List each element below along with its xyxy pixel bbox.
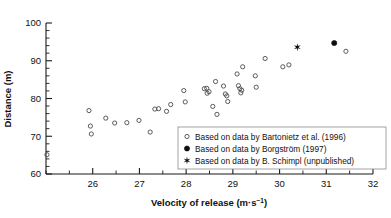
x-tick-label: 30 <box>274 178 285 189</box>
x-tick-label: 31 <box>321 178 332 189</box>
data-point-open-circle <box>87 108 91 112</box>
data-point-open-circle <box>169 102 173 106</box>
data-point-open-circle <box>213 79 217 83</box>
y-tick-label: 70 <box>30 131 41 142</box>
x-tick-label: 32 <box>368 178 379 189</box>
x-tick-label: 26 <box>87 178 98 189</box>
series-1-points <box>332 40 337 45</box>
data-point-open-circle <box>226 99 230 103</box>
data-point-open-circle <box>183 100 187 104</box>
data-point-open-circle <box>239 91 243 95</box>
data-point-open-circle <box>211 104 215 108</box>
chart-canvas: 60708090100 26272829303132 Based on data… <box>0 0 391 218</box>
x-tick-label: 29 <box>228 178 239 189</box>
data-point-open-circle <box>221 84 225 88</box>
data-point-open-circle <box>263 56 267 60</box>
scatter-chart-figure: 60708090100 26272829303132 Based on data… <box>0 0 391 218</box>
data-point-open-circle <box>104 116 108 120</box>
y-tick-label: 80 <box>30 93 41 104</box>
chart-legend: Based on data by Bartonietz et al. (1996… <box>178 127 386 169</box>
y-axis-ticks <box>46 23 52 174</box>
data-point-open-circle <box>113 121 117 125</box>
data-point-open-circle <box>241 65 245 69</box>
data-point-open-circle <box>254 85 258 89</box>
data-point-open-circle <box>182 88 186 92</box>
legend-label-2: Based on data by B. Schimpl (unpublished… <box>195 156 354 166</box>
data-point-open-circle <box>148 130 152 134</box>
data-point-star <box>294 43 301 51</box>
data-point-open-circle <box>281 65 285 69</box>
data-point-open-circle <box>137 118 141 122</box>
data-point-filled-circle <box>184 146 189 151</box>
legend-label-1: Based on data by Borgström (1997) <box>195 144 327 154</box>
legend-label-0: Based on data by Bartonietz et al. (1996… <box>195 132 346 142</box>
data-point-open-circle <box>88 124 92 128</box>
series-2-points <box>294 43 301 51</box>
x-tick-label: 27 <box>134 178 145 189</box>
x-tick-label: 28 <box>181 178 192 189</box>
data-point-open-circle <box>287 63 291 67</box>
y-tick-label: 60 <box>30 168 41 179</box>
data-point-open-circle <box>215 112 219 116</box>
data-point-open-circle <box>235 72 239 76</box>
data-point-open-circle <box>125 121 129 125</box>
y-tick-label: 100 <box>25 17 41 28</box>
data-point-open-circle <box>253 74 257 78</box>
x-axis-tick-labels: 26272829303132 <box>87 178 378 189</box>
data-point-open-circle <box>89 132 93 136</box>
x-axis-label: Velocity of release (m·s−1) <box>151 197 267 208</box>
y-tick-label: 90 <box>30 55 41 66</box>
data-point-open-circle <box>164 109 168 113</box>
data-point-filled-circle <box>332 40 337 45</box>
y-axis-label: Distance (m) <box>2 70 13 127</box>
data-point-open-circle <box>344 49 348 53</box>
y-axis-tick-labels: 60708090100 <box>25 17 41 179</box>
